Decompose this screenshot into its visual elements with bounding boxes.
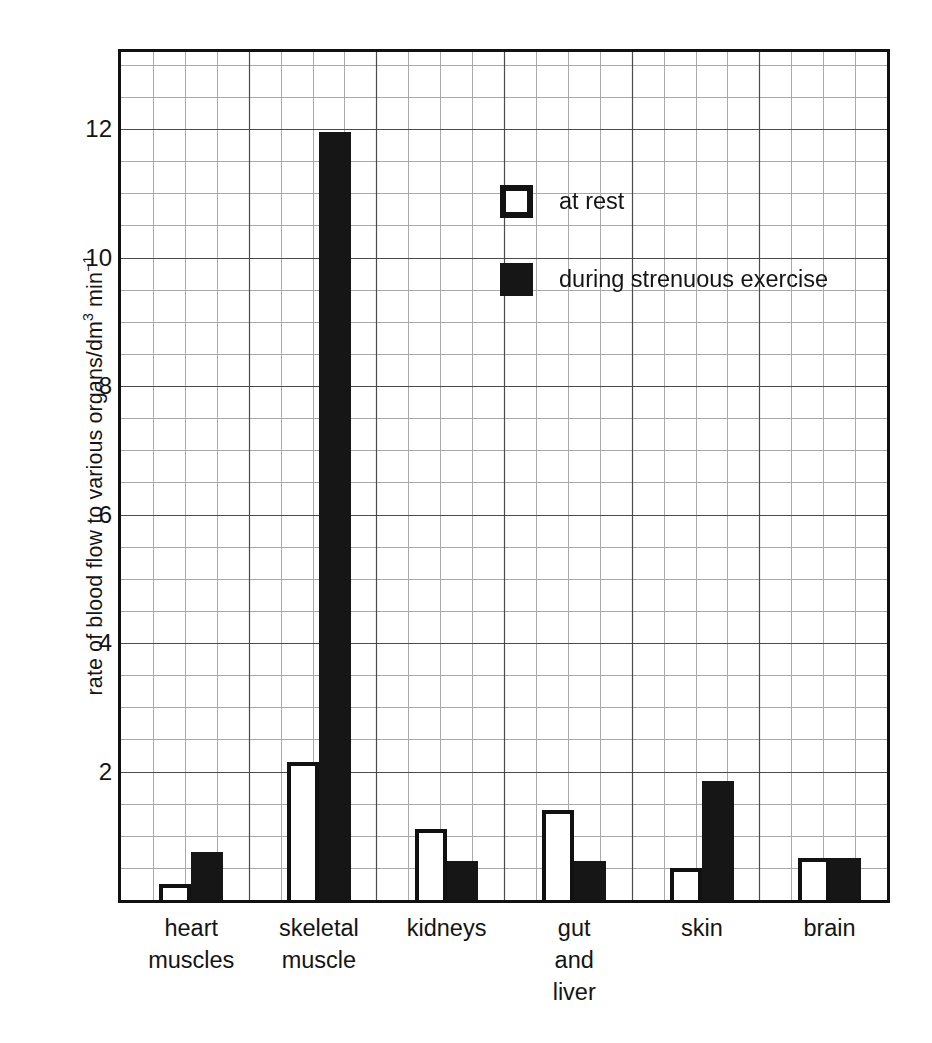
y-axis-tick-6: 6	[68, 501, 112, 529]
bar-brain-at-rest	[798, 858, 830, 900]
y-axis-tick-8: 8	[68, 372, 112, 400]
y-axis-tick-4: 4	[68, 629, 112, 657]
bar-gut-and-liver-during-strenuous-exercise	[574, 861, 606, 900]
legend-label-during-exercise: during strenuous exercise	[559, 266, 828, 293]
bar-skin-during-strenuous-exercise	[702, 781, 734, 900]
bar-chart-figure: rate of blood flow to various organs/dm3…	[0, 0, 932, 1043]
open-square-icon	[500, 185, 533, 218]
bar-heart-muscles-at-rest	[159, 884, 191, 900]
x-axis-label-brain: brain	[740, 912, 920, 944]
bar-skeletal-muscle-at-rest	[287, 762, 319, 900]
bar-skin-at-rest	[670, 868, 702, 900]
y-axis-tick-12: 12	[68, 115, 112, 143]
legend-item-at-rest: at rest	[500, 178, 624, 224]
x-axis-category-labels: heartmusclesskeletalmusclekidneysgutandl…	[118, 912, 890, 1032]
filled-square-icon	[500, 263, 533, 296]
y-axis-tick-10: 10	[68, 244, 112, 272]
legend-label-at-rest: at rest	[559, 188, 624, 215]
x-axis-label-line: muscle	[229, 944, 409, 976]
bar-brain-during-strenuous-exercise	[830, 858, 862, 900]
bar-kidneys-at-rest	[415, 829, 447, 900]
x-axis-label-line: brain	[740, 912, 920, 944]
x-axis-label-line: and	[484, 944, 664, 976]
y-axis-tick-labels: 24681012	[60, 0, 112, 1043]
bar-skeletal-muscle-during-strenuous-exercise	[319, 132, 351, 900]
plot-area: at rest during strenuous exercise	[118, 49, 890, 903]
bar-kidneys-during-strenuous-exercise	[447, 861, 479, 900]
bar-heart-muscles-during-strenuous-exercise	[191, 852, 223, 900]
y-axis-tick-2: 2	[68, 758, 112, 786]
legend-item-during-strenuous-exercise: during strenuous exercise	[500, 256, 828, 302]
bar-gut-and-liver-at-rest	[542, 810, 574, 900]
x-axis-label-line: liver	[484, 976, 664, 1008]
